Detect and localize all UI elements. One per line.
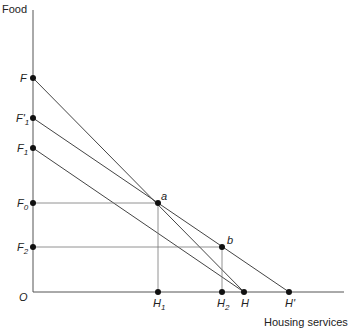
label-H2: H: [217, 297, 225, 309]
label-H: H: [241, 297, 249, 309]
svg-text:F'1: F'1: [16, 112, 29, 127]
svg-text:H2: H2: [217, 297, 230, 312]
point-b-label: b: [227, 234, 233, 246]
budget-line-F1-H: [33, 148, 244, 292]
svg-text:H1: H1: [153, 297, 165, 312]
budget-line-diagram: Food Housing services O F F'1 F1 F0 F2 H…: [0, 0, 349, 333]
x-point-labels: H1 H2 H H': [153, 297, 296, 312]
svg-text:H: H: [241, 297, 249, 309]
origin-label: O: [19, 291, 28, 303]
svg-text:F2: F2: [17, 241, 29, 256]
point-a-label: a: [161, 190, 167, 202]
y-point-labels: F F'1 F1 F0 F2: [16, 72, 29, 256]
budget-line-F1prime-Hprime: [33, 118, 289, 292]
axis-dots: [30, 75, 292, 295]
svg-text:H': H': [285, 297, 296, 309]
budget-line-F-H: [33, 78, 244, 292]
label-F: F: [20, 72, 28, 84]
x-axis-label: Housing services: [264, 316, 348, 328]
svg-text:F: F: [20, 72, 28, 84]
y-axis-label: Food: [2, 3, 27, 15]
svg-text:F0: F0: [17, 197, 29, 212]
svg-text:F1: F1: [17, 142, 28, 157]
label-H1: H: [153, 297, 161, 309]
label-Hprime: H': [285, 297, 296, 309]
